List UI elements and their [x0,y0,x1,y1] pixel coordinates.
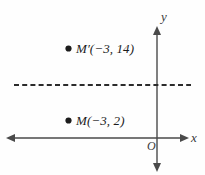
y-axis-bottom-arrowhead-icon [153,163,161,172]
point-marker-m-prime [65,45,71,51]
x-axis-label: x [191,131,197,144]
y-axis-label: y [161,10,167,23]
point-label-m: M(−3, 2) [76,114,125,127]
x-axis-left-arrowhead-icon [6,134,15,142]
coordinate-plane-canvas [0,0,205,175]
point-marker-m [65,117,71,123]
coordinate-plane-figure: y x O M′(−3, 14) M(−3, 2) [0,0,205,175]
y-axis-top-arrowhead-icon [153,26,161,35]
point-label-m-prime: M′(−3, 14) [76,42,134,55]
origin-label: O [147,140,156,152]
x-axis [6,134,189,142]
x-axis-right-arrowhead-icon [180,134,189,142]
